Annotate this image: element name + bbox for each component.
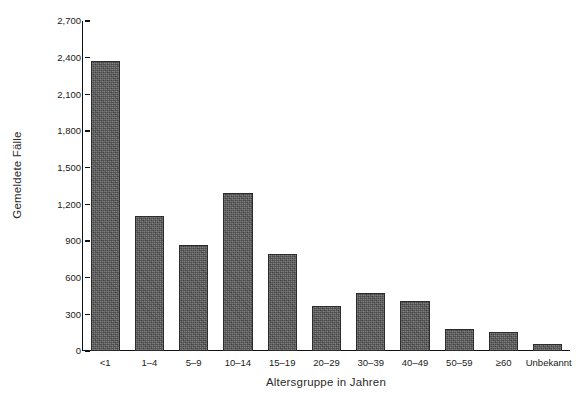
bar — [445, 329, 474, 351]
bar-slot — [437, 21, 481, 351]
x-axis-tick-label: <1 — [83, 358, 127, 368]
bar-slot — [526, 21, 570, 351]
bar-slot — [304, 21, 348, 351]
plot-area: 03006009001,2001,5001,8002,1002,4002,700 — [82, 18, 570, 352]
y-axis-tick-label: 2,100 — [57, 90, 85, 100]
bar — [268, 254, 297, 351]
x-axis-tick-label: ≥60 — [481, 358, 525, 368]
bar-slot — [127, 21, 171, 351]
bar-slot — [393, 21, 437, 351]
y-axis-title: Gemeldete Fälle — [6, 0, 28, 350]
bar — [179, 245, 208, 351]
x-axis-tick-label: 20–29 — [304, 358, 348, 368]
x-axis-tick-label: 50–59 — [437, 358, 481, 368]
x-axis-title: Altersgruppe in Jahren — [82, 376, 570, 388]
x-axis-tick-label: Unbekannt — [526, 358, 570, 368]
x-axis-tick-label: 30–39 — [349, 358, 393, 368]
y-axis-tick-label: 1,200 — [57, 200, 85, 210]
x-axis-tick-label: 15–19 — [260, 358, 304, 368]
x-axis-tick-label: 10–14 — [216, 358, 260, 368]
bar — [91, 61, 120, 351]
y-axis-tick-label: 2,700 — [57, 16, 85, 26]
y-axis-tick-label: 2,400 — [57, 53, 85, 63]
bar-series — [83, 21, 570, 351]
bar — [312, 306, 341, 351]
bar-chart-figure: Gemeldete Fälle 03006009001,2001,5001,80… — [0, 0, 583, 400]
bar — [400, 301, 429, 351]
y-axis-tick-label: 1,500 — [57, 163, 85, 173]
x-axis-ticks: <11–45–910–1415–1920–2930–3940–4950–59≥6… — [83, 358, 570, 374]
bar-slot — [83, 21, 127, 351]
x-axis-tick-label: 1–4 — [127, 358, 171, 368]
bar — [533, 344, 562, 351]
bar-slot — [349, 21, 393, 351]
bar-slot — [172, 21, 216, 351]
bar-slot — [216, 21, 260, 351]
bar — [135, 216, 164, 351]
bar — [223, 193, 252, 351]
bar — [356, 293, 385, 351]
bar — [489, 332, 518, 351]
x-axis-tick-label: 5–9 — [172, 358, 216, 368]
bar-slot — [481, 21, 525, 351]
x-axis-tick-label: 40–49 — [393, 358, 437, 368]
y-axis-tick-label: 1,800 — [57, 126, 85, 136]
bar-slot — [260, 21, 304, 351]
y-axis-title-text: Gemeldete Fälle — [11, 131, 23, 218]
